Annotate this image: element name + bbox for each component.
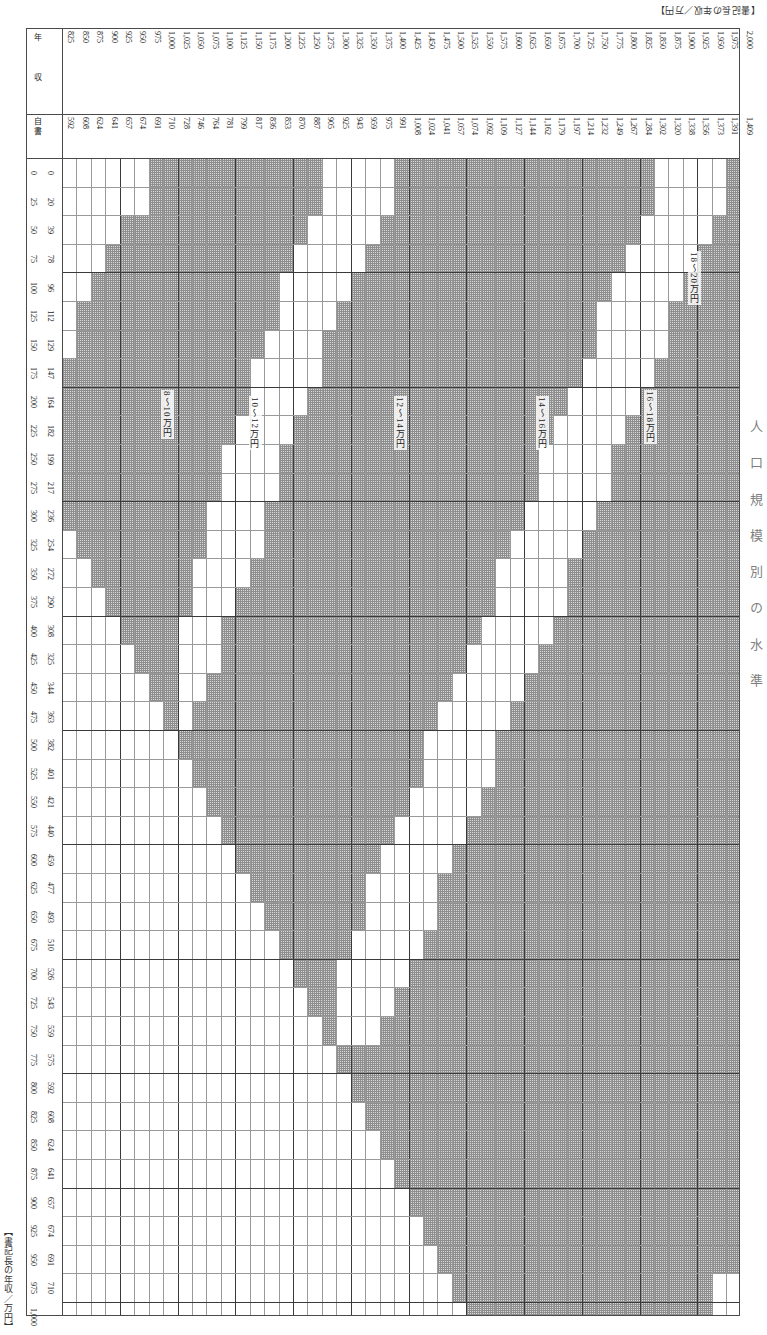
heatmap-cell [525,359,539,387]
heatmap-cell [92,559,106,587]
heatmap-cell [164,760,178,788]
heatmap-cell [511,1046,525,1074]
heatmap-cell [698,1160,712,1188]
heatmap-cell [453,788,467,816]
heatmap-cell [482,302,496,330]
heatmap-cell [467,702,481,730]
x-subtick-19: 925 [337,115,351,159]
heatmap-cell [698,1131,712,1159]
heatmap-cell [511,702,525,730]
heatmap-cell [92,388,106,416]
heatmap-cell [453,388,467,416]
heatmap-cell [669,645,683,673]
heatmap-cell [669,1131,683,1159]
heatmap-cell [626,988,640,1016]
heatmap-cell [308,960,322,988]
heatmap-cell [280,988,294,1016]
heatmap-cell [308,674,322,702]
heatmap-cell [698,731,712,759]
heatmap-cell [424,731,438,759]
heatmap-cell [698,1017,712,1045]
heatmap-cell [568,588,582,616]
heatmap-cell [467,788,481,816]
x-subtick-value-37: 1,232 [600,117,608,135]
heatmap-cell [482,1017,496,1045]
header-corner-label-1: 年 [31,33,42,41]
heatmap-cell [727,216,739,244]
heatmap-cell [164,474,178,502]
heatmap-cell [713,531,727,559]
heatmap-cell [77,388,91,416]
y-subtick-value-13: 254 [46,539,54,551]
heatmap-cell [280,588,294,616]
heatmap-cell [63,760,77,788]
heatmap-cell [698,1103,712,1131]
y-tick-34: 850624 [27,1131,62,1160]
heatmap-cell [164,1217,178,1245]
heatmap-cell [525,245,539,273]
heatmap-cell [482,502,496,530]
heatmap-cell [222,788,236,816]
heatmap-cell [251,1274,265,1302]
y-tick-value-9: 225 [29,425,37,437]
heatmap-cell [179,1131,193,1159]
x-tick-15: 1,200 [280,29,294,115]
heatmap-cell [294,331,308,359]
heatmap-cell [698,617,712,645]
heatmap-cell [410,674,424,702]
y-subtick-value-1: 20 [46,198,54,206]
band-label-5: 8～10万円 [161,390,174,439]
heatmap-cell [381,1074,395,1102]
heatmap-cell [395,1131,409,1159]
heatmap-cell [77,1131,91,1159]
heatmap-cell [77,559,91,587]
heatmap-cell [381,588,395,616]
heatmap-cell [539,874,553,902]
heatmap-cell [193,416,207,444]
heatmap-cell [597,988,611,1016]
heatmap-cell [410,445,424,473]
heatmap-cell [669,1217,683,1245]
heatmap-cell [352,845,366,873]
heatmap-cell [641,760,655,788]
heatmap-cell [727,1189,739,1217]
heatmap-cell [554,1246,568,1274]
heatmap-cell [164,559,178,587]
heatmap-cell [568,874,582,902]
heatmap-cell [164,1103,178,1131]
heatmap-cell [135,216,149,244]
heatmap-cell [424,1017,438,1045]
heatmap-cell [207,502,221,530]
heatmap-cell [424,331,438,359]
heatmap-cell [179,702,193,730]
heatmap-cell [568,531,582,559]
heatmap-cell [410,1274,424,1302]
heatmap-cell [280,1303,294,1315]
heatmap-cell [294,1103,308,1131]
heatmap-cell [424,1046,438,1074]
heatmap-cell [77,1246,91,1274]
heatmap-cell [135,445,149,473]
heatmap-cell [366,216,380,244]
heatmap-cell [568,359,582,387]
heatmap-cell [337,1074,351,1102]
x-subtick-value-12: 799 [239,117,247,129]
heatmap-cell [424,245,438,273]
x-tick-9: 1,050 [193,29,207,115]
x-tick-value-4: 925 [124,31,132,43]
heatmap-cell [612,1189,626,1217]
heatmap-cell [554,1217,568,1245]
heatmap-cell [713,159,727,187]
x-subtick-46: 1,391 [727,115,741,159]
heatmap-cell [669,331,683,359]
heatmap-cell [222,931,236,959]
heatmap-cell [597,1189,611,1217]
heatmap-cell [626,331,640,359]
heatmap-cell [583,273,597,301]
heatmap-cell [395,788,409,816]
heatmap-cell [727,1274,739,1302]
heatmap-cell [698,788,712,816]
heatmap-cell [308,1046,322,1074]
heatmap-cell [583,1017,597,1045]
heatmap-cell [308,645,322,673]
